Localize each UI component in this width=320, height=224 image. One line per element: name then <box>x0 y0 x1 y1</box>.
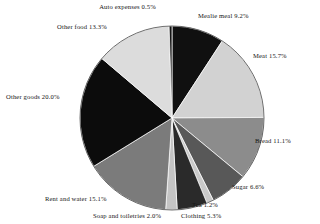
slice-label-auto-expenses: Auto expenses 0.5% <box>75 3 180 11</box>
pie-chart-figure: Auto expenses 0.5% Mealie meal 9.2% Meat… <box>0 0 320 224</box>
slice-label-rent-and-water: Rent and water 15.1% <box>45 195 107 203</box>
slice-label-bread: Bread 11.1% <box>255 137 291 145</box>
pie-chart-canvas <box>0 0 320 224</box>
slice-label-clothing: Clothing 5.3% <box>181 212 221 220</box>
slice-label-other-food: Other food 13.3% <box>57 23 107 31</box>
slice-label-mealie-meal: Mealie meal 9.2% <box>198 12 249 20</box>
slice-label-other-goods: Other goods 20.0% <box>6 93 60 101</box>
slice-label-sugar: Sugar 6.6% <box>232 183 264 191</box>
slice-label-meat: Meat 15.7% <box>253 52 287 60</box>
slice-label-tea: Tea 1.2% <box>192 201 218 209</box>
slice-label-soap-and-toiletries: Soap and toiletries 2.0% <box>93 212 161 220</box>
